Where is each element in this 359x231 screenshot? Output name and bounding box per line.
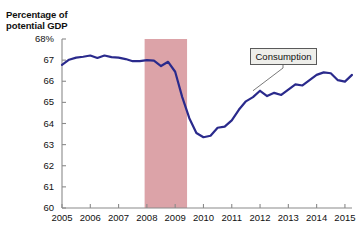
y-tick-label: 64 [8,118,54,129]
y-tick-label: 61 [8,181,54,192]
y-tick-label: 67 [8,54,54,65]
y-tick-label: 62 [8,160,54,171]
y-axis-title-line2: potential GDP [6,20,68,32]
y-tick-label: 68% [8,33,54,44]
y-axis-title-line1: Percentage of [6,9,68,21]
y-tick-label: 63 [8,139,54,150]
consumption-annotation-label: Consumption [250,48,317,65]
y-tick-label: 66 [8,75,54,86]
y-tick-label: 65 [8,96,54,107]
x-tick-label: 2015 [328,212,359,223]
